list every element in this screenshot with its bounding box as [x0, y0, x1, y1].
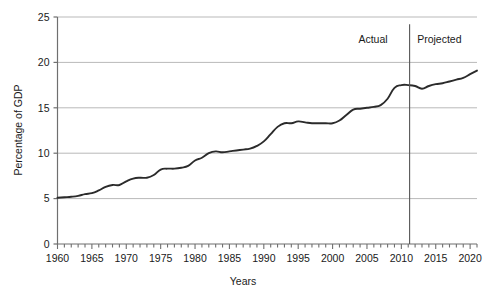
- x-tick-label-1990: 1990: [252, 252, 276, 264]
- annotations: ActualProjected: [358, 24, 461, 244]
- x-tick-labels: 1960196519701975198019851990199520002005…: [46, 252, 482, 264]
- projected-label: Projected: [417, 33, 462, 45]
- x-tick-label-1970: 1970: [115, 252, 139, 264]
- gridlines: [58, 17, 478, 199]
- x-tick-label-2020: 2020: [458, 252, 482, 264]
- x-axis: [58, 244, 478, 249]
- data-series-line: [58, 71, 478, 198]
- x-tick-label-1985: 1985: [218, 252, 242, 264]
- x-tick-label-1975: 1975: [149, 252, 173, 264]
- y-axis: [54, 17, 58, 244]
- y-tick-label-10: 10: [38, 147, 50, 159]
- y-tick-label-15: 15: [38, 102, 50, 114]
- series-percentage-of-gdp: [58, 71, 478, 198]
- y-tick-labels: 0510152025: [38, 11, 50, 250]
- x-tick-label-1965: 1965: [80, 252, 104, 264]
- x-tick-label-2010: 2010: [390, 252, 414, 264]
- x-tick-label-1980: 1980: [183, 252, 207, 264]
- x-tick-label-2015: 2015: [424, 252, 448, 264]
- y-tick-label-5: 5: [44, 192, 50, 204]
- x-tick-label-2005: 2005: [355, 252, 379, 264]
- chart-figure: 0510152025 19601965197019751980198519901…: [0, 0, 486, 295]
- y-tick-label-0: 0: [44, 238, 50, 250]
- x-tick-label-1960: 1960: [46, 252, 70, 264]
- y-tick-label-25: 25: [38, 11, 50, 23]
- x-tick-label-2000: 2000: [321, 252, 345, 264]
- x-axis-title: Years: [230, 275, 256, 287]
- line-chart: 0510152025 19601965197019751980198519901…: [0, 0, 486, 295]
- y-axis-title: Percentage of GDP: [12, 84, 24, 175]
- actual-label: Actual: [358, 33, 387, 45]
- y-tick-label-20: 20: [38, 56, 50, 68]
- x-tick-label-1995: 1995: [287, 252, 311, 264]
